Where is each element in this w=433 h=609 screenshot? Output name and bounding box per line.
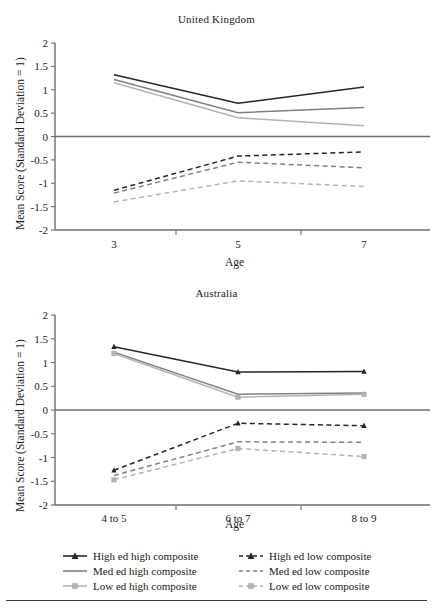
legend-item-left-1[interactable]: Med ed high composite	[62, 563, 198, 578]
y-tick-label: 0.5	[34, 107, 48, 119]
chart-panel-united-kingdom: United Kingdom Mean Score (Standard Devi…	[0, 0, 433, 282]
x-tick-label: 7	[361, 238, 367, 250]
figure-page: United Kingdom Mean Score (Standard Devi…	[0, 0, 433, 609]
chart-panel-australia: Australia Mean Score (Standard Deviation…	[0, 282, 433, 540]
legend-label: High ed low composite	[269, 550, 371, 562]
y-tick-label: -0.5	[31, 154, 49, 166]
y-tick-label: 1.5	[34, 333, 48, 345]
legend-key-solid-triangle-dark	[62, 549, 88, 563]
series-marker-triangle	[111, 344, 116, 349]
legend-column-low-composite: High ed low compositeMed ed low composit…	[238, 548, 371, 593]
series-marker-square	[235, 446, 240, 451]
legend-item-right-2[interactable]: Low ed low composite	[238, 578, 371, 593]
y-tick-label: 1	[43, 357, 49, 369]
series-marker-square	[361, 392, 366, 397]
legend-key-dashed-square-light	[238, 579, 264, 593]
series-marker-square	[235, 395, 240, 400]
legend-item-right-0[interactable]: High ed low composite	[238, 548, 371, 563]
y-tick-label: -2	[39, 224, 48, 236]
y-tick-label: 2	[43, 309, 49, 321]
legend-label: High ed high composite	[93, 550, 198, 562]
legend-label: Med ed low composite	[269, 565, 370, 577]
legend-marker-solid-square-light	[62, 579, 88, 593]
y-tick-label: 2	[43, 37, 49, 49]
legend-marker-dashed-line-mid	[238, 564, 264, 578]
x-axis-title-australia: Age	[18, 518, 433, 530]
legend-column-high-composite: High ed high compositeMed ed high compos…	[62, 548, 198, 593]
series-line-4	[114, 162, 364, 193]
legend-label: Med ed high composite	[93, 565, 197, 577]
legend-key-square	[72, 583, 78, 589]
y-tick-label: -1	[39, 452, 48, 464]
x-tick-label: 5	[235, 238, 241, 250]
y-tick-label: 0	[43, 131, 49, 143]
chart-legend: High ed high compositeMed ed high compos…	[0, 548, 433, 594]
series-line-5	[114, 449, 364, 480]
series-marker-square	[361, 454, 366, 459]
legend-marker-solid-triangle-dark	[62, 549, 88, 563]
y-tick-label: -0.5	[31, 428, 49, 440]
y-tick-label: 0.5	[34, 380, 48, 392]
legend-key-dashed-triangle-dark	[238, 549, 264, 563]
legend-label: Low ed low composite	[269, 580, 370, 592]
legend-item-left-0[interactable]: High ed high composite	[62, 548, 198, 563]
legend-item-left-2[interactable]: Low ed high composite	[62, 578, 198, 593]
y-tick-label: -1.5	[31, 475, 49, 487]
legend-key-solid-line-mid	[62, 564, 88, 578]
y-tick-label: 1	[43, 84, 49, 96]
y-tick-label: -1	[39, 177, 48, 189]
series-marker-triangle	[235, 420, 240, 425]
x-axis-title-united-kingdom: Age	[18, 256, 433, 268]
series-line-2	[114, 354, 364, 398]
legend-label: Low ed high composite	[93, 580, 197, 592]
plot-area-united-kingdom: 21.510.50-0.5-1-1.5-2357	[0, 0, 433, 282]
legend-item-right-1[interactable]: Med ed low composite	[238, 563, 371, 578]
footer-divider	[6, 600, 427, 601]
x-tick-label: 3	[111, 238, 117, 250]
y-tick-label: -1.5	[31, 201, 49, 213]
plot-area-australia: 21.510.50-0.5-1-1.5-24 to 56 to 78 to 9	[0, 282, 433, 540]
series-marker-square	[111, 351, 116, 356]
y-tick-label: 0	[43, 404, 49, 416]
legend-marker-solid-line-mid	[62, 564, 88, 578]
y-tick-label: 1.5	[34, 60, 48, 72]
series-line-0	[114, 347, 364, 372]
legend-key-square	[248, 583, 254, 589]
legend-marker-dashed-triangle-dark	[238, 549, 264, 563]
legend-key-dashed-line-mid	[238, 564, 264, 578]
series-line-1	[114, 80, 364, 113]
series-marker-square	[111, 477, 116, 482]
y-tick-label: -2	[39, 499, 48, 511]
legend-key-solid-square-light	[62, 579, 88, 593]
legend-marker-dashed-square-light	[238, 579, 264, 593]
